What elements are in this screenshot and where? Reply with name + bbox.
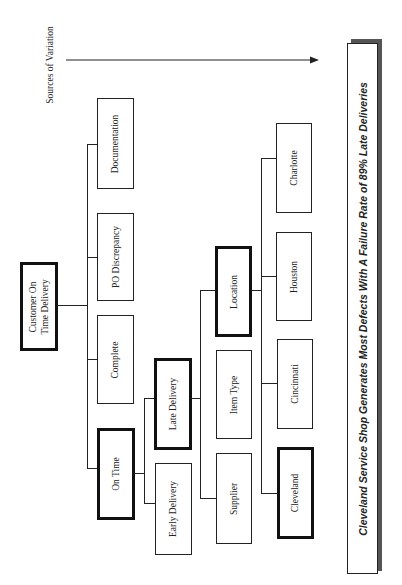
connector [87,257,97,258]
connector [261,158,276,159]
connector [87,468,97,469]
node-houston: Houston [276,232,312,321]
node-label: Houston [288,260,300,292]
connector [200,290,215,291]
node-po-discrepancy: PO Discrepancy [97,213,134,301]
node-documentation: Documentation [97,98,134,189]
node-label: Location [228,275,240,309]
sources-of-variation-label: Sources of Variation [40,25,60,105]
connector [134,473,144,474]
node-label-line1: Customer On [27,279,39,334]
node-late-delivery: Late Delivery [154,358,192,450]
node-label: Supplier [228,482,240,514]
node-label: Customer On Time Delivery [27,279,51,334]
node-label: PO Discrepancy [110,226,122,288]
node-early-delivery: Early Delivery [155,463,192,555]
arrow-right-icon [64,55,320,65]
axis-label-text: Sources of Variation [45,26,55,103]
drill-down-tree-diagram: Sources of Variation Customer On Time De… [0,0,402,585]
node-label: Charlotte [288,150,300,185]
node-supplier: Supplier [216,453,252,544]
node-label-line2: Time Delivery [39,279,51,334]
node-label: On Time [110,457,122,491]
node-charlotte: Charlotte [276,123,312,213]
node-label: Cincinnati [289,364,301,404]
connector [144,398,154,399]
node-label: Cleveland [290,474,302,513]
node-on-time: On Time [97,428,135,520]
connector [251,290,261,291]
node-location: Location [215,246,252,337]
node-label: Early Delivery [168,481,180,537]
connector [200,498,216,499]
connector [261,276,276,277]
connector [261,493,277,494]
connector [57,305,87,306]
connector [200,290,201,499]
connector [261,383,277,384]
node-cincinnati: Cincinnati [277,339,313,429]
node-label: Item Type [228,375,240,413]
node-label: Complete [110,341,122,378]
connector [87,144,88,469]
connector [87,144,97,145]
node-label: Documentation [110,114,122,173]
conclusion-box: Cleveland Service Shop Generates Most De… [347,43,378,574]
connector [261,158,262,494]
node-complete: Complete [97,315,134,404]
connector [144,398,145,504]
connector [87,359,97,360]
node-item-type: Item Type [216,350,252,439]
conclusion-text: Cleveland Service Shop Generates Most De… [357,82,369,536]
node-cleveland: Cleveland [277,447,314,539]
node-label: Late Delivery [167,378,179,431]
connector [144,503,155,504]
node-customer-on-time-delivery: Customer On Time Delivery [20,262,58,351]
